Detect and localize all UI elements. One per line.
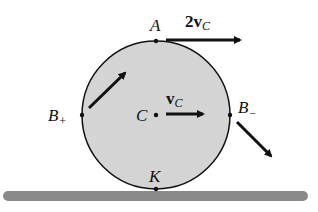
label-a: A (149, 16, 161, 35)
point-b-plus (80, 113, 84, 117)
ground (3, 191, 308, 201)
point-a (154, 39, 158, 43)
label-b-minus: B− (238, 98, 257, 120)
rolling-disk-diagram: A C K B+ B− 2vC vC (0, 0, 318, 212)
velocity-arrow-b-minus (237, 122, 271, 156)
point-k (154, 187, 158, 191)
label-b-plus: B+ (48, 106, 67, 128)
label-velocity-top: 2vC (185, 12, 211, 33)
label-c: C (136, 106, 148, 125)
point-b-minus (228, 113, 232, 117)
label-k: K (148, 167, 162, 186)
point-c (154, 113, 158, 117)
